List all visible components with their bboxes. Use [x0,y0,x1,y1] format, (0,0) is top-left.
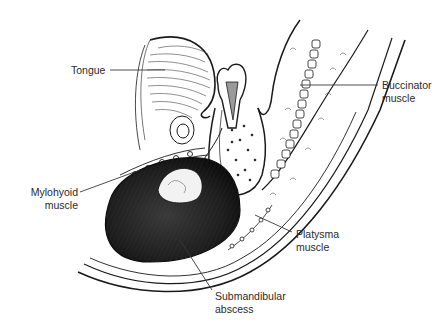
label-abscess-line2: abscess [215,303,286,316]
label-platysma-line1: Platysma [296,228,339,241]
label-buccinator-line2: muscle [382,92,432,105]
label-abscess-line1: Submandibular [215,290,286,303]
label-mylohyoid-muscle: Mylohyoid muscle [22,186,78,212]
submandibular-abscess [106,128,240,262]
label-buccinator-line1: Buccinator [382,79,432,92]
anatomy-drawing [0,0,442,323]
tooth [217,64,246,128]
label-platysma-line2: muscle [296,241,339,254]
leader-platysma [255,215,292,232]
label-submandibular-abscess: Submandibular abscess [215,290,286,316]
label-mylohyoid-line1: Mylohyoid [22,186,78,199]
label-tongue-text: Tongue [71,64,105,77]
tongue [135,37,215,150]
label-mylohyoid-line2: muscle [22,199,78,212]
anatomy-figure: Tongue Buccinator muscle Mylohyoid muscl… [0,0,442,323]
sublingual-gland [170,116,194,144]
label-platysma-muscle: Platysma muscle [296,228,339,254]
buccinator-muscle-fibers [271,40,320,178]
label-tongue: Tongue [71,64,105,77]
label-buccinator-muscle: Buccinator muscle [382,79,432,105]
